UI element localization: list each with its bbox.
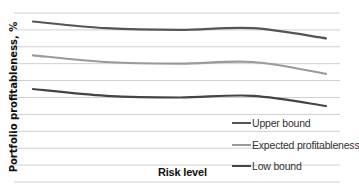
x-axis-label: Risk level <box>158 166 207 178</box>
legend-item-upper-bound: Upper bound <box>232 117 311 129</box>
series-line-expected-profitableness <box>33 55 326 74</box>
legend-label: Low bound <box>252 160 302 172</box>
legend-item-expected-profitableness: Expected profitableness <box>232 139 359 151</box>
legend-swatch-upper-bound-icon <box>232 122 251 124</box>
y-axis-label: Portfolio profitableness, % <box>8 22 19 173</box>
legend-swatch-expected-icon <box>232 144 251 146</box>
legend-item-low-bound: Low bound <box>232 160 302 172</box>
legend-swatch-low-bound-icon <box>232 165 251 167</box>
legend-label: Upper bound <box>252 117 311 129</box>
legend-label: Expected profitableness <box>252 139 359 151</box>
